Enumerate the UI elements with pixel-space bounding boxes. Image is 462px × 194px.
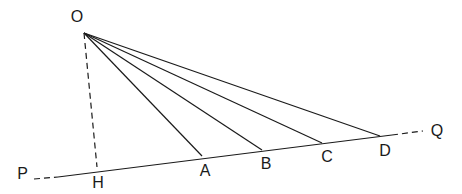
- line-PQ-solid: [58, 135, 392, 177]
- label-Q: Q: [431, 122, 443, 139]
- segment-OD: [84, 33, 380, 136]
- label-C: C: [321, 148, 333, 165]
- point-labels: O H A B C D P Q: [17, 8, 443, 191]
- segment-OC: [84, 33, 322, 143]
- segment-OB: [84, 33, 262, 150]
- line-PQ-dashed-right: [392, 131, 423, 135]
- segment-OA: [84, 33, 202, 156]
- segments-group: [84, 33, 380, 167]
- label-B: B: [261, 155, 272, 172]
- perpendicular-OH: [84, 33, 97, 167]
- label-D: D: [379, 142, 391, 159]
- label-P: P: [17, 165, 28, 182]
- label-O: O: [71, 8, 83, 25]
- line-PQ-dashed-left: [34, 177, 58, 179]
- label-A: A: [200, 162, 211, 179]
- line-PQ: [34, 131, 423, 179]
- geometry-diagram: O H A B C D P Q: [0, 0, 462, 194]
- label-H: H: [92, 174, 104, 191]
